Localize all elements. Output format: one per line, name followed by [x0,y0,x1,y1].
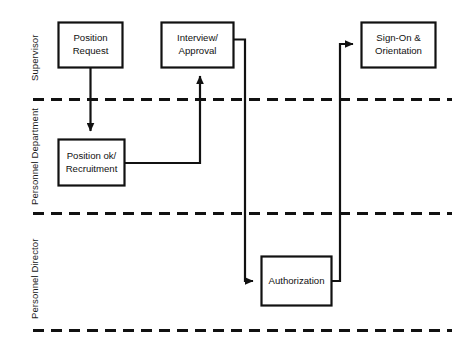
node-position-request[interactable]: Position Request [59,23,123,68]
node-position-ok-recruitment[interactable]: Position ok/ Recruitment [59,140,125,186]
node-position-ok-recruitment-label-line2: Recruitment [66,163,118,174]
edge-recruitment-to-interview-path [124,76,200,163]
lane-labels: Supervisor Personnel Department Personne… [29,35,40,319]
node-authorization-label-line1: Authorization [269,275,325,286]
lane-label-personnel-director: Personnel Director [29,239,40,319]
node-interview-approval[interactable]: Interview/ Approval [162,23,234,68]
edge-interview-to-authorization [234,40,253,282]
diagram-canvas: Supervisor Personnel Department Personne… [0,0,458,352]
edge-interview-to-authorization-path [234,40,253,282]
node-sign-on-orientation[interactable]: Sign-On & Orientation [362,23,436,68]
swimlane-diagram: Supervisor Personnel Department Personne… [0,0,458,352]
node-position-request-label-line2: Request [73,45,109,56]
lane-label-personnel-department: Personnel Department [29,108,40,205]
lane-label-supervisor: Supervisor [29,35,40,81]
edge-authorization-to-signon-path [331,44,353,281]
lane-dividers [33,100,452,331]
node-position-ok-recruitment-label-line1: Position ok/ [67,150,117,161]
node-interview-approval-label-line2: Approval [179,45,217,56]
node-sign-on-orientation-label-line1: Sign-On & [376,32,421,43]
node-interview-approval-label-line1: Interview/ [177,32,218,43]
node-position-request-label-line1: Position [73,32,107,43]
node-sign-on-orientation-label-line2: Orientation [375,45,422,56]
node-authorization[interactable]: Authorization [262,257,332,306]
edge-authorization-to-signon [331,44,353,281]
edge-recruitment-to-interview [124,76,200,163]
